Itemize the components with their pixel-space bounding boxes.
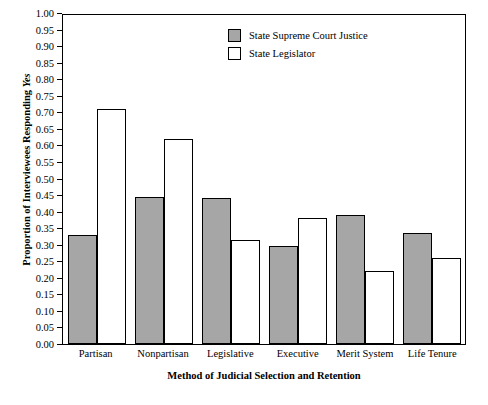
y-axis-tick-label: 0.30 (36, 240, 54, 252)
y-axis-tick-label: 0.35 (36, 223, 54, 235)
y-axis-tick: 0.70 (0, 107, 62, 119)
y-axis-tick-label: 0.85 (36, 58, 54, 70)
y-axis-tick: 0.95 (0, 25, 62, 37)
bar (231, 240, 260, 344)
x-axis-title: Method of Judicial Selection and Retenti… (62, 370, 466, 381)
bar (202, 198, 231, 344)
y-axis-tick: 0.25 (0, 256, 62, 268)
bar-group (68, 15, 126, 344)
y-axis-tick-label: 0.25 (36, 256, 54, 268)
x-axis: PartisanNonpartisanLegislativeExecutiveM… (62, 345, 466, 365)
y-axis-tick: 0.65 (0, 124, 62, 136)
y-axis-tick: 0.00 (0, 339, 62, 351)
y-axis-tick: 0.10 (0, 306, 62, 318)
y-axis-tick-label: 0.45 (36, 190, 54, 202)
y-axis-tick: 0.85 (0, 58, 62, 70)
y-axis-tick: 0.05 (0, 322, 62, 334)
bar (298, 218, 327, 344)
y-axis-tick: 0.55 (0, 157, 62, 169)
y-axis-tick: 0.30 (0, 240, 62, 252)
y-axis-tick-label: 0.65 (36, 124, 54, 136)
y-axis-tick-label: 0.90 (36, 41, 54, 53)
bar (365, 271, 394, 344)
bar (403, 233, 432, 344)
legend-label: State Legislator (249, 47, 315, 60)
y-axis-tick-label: 0.60 (36, 140, 54, 152)
bar (68, 235, 97, 344)
bar-group (403, 15, 461, 344)
y-axis-tick: 1.00 (0, 8, 62, 20)
y-axis-tick-label: 0.15 (36, 289, 54, 301)
y-axis-tick: 0.50 (0, 174, 62, 186)
y-axis-tick-label: 0.50 (36, 174, 54, 186)
bar-chart: Proportion of Interviewees Responding Ye… (0, 0, 488, 405)
y-axis-tick-label: 0.55 (36, 157, 54, 169)
bar-group (135, 15, 193, 344)
y-axis-tick: 0.90 (0, 41, 62, 53)
bar (135, 197, 164, 344)
y-axis-tick-label: 0.70 (36, 107, 54, 119)
legend-item: State Legislator (228, 47, 368, 60)
x-axis-tick-label: Executive (264, 345, 331, 363)
bar (336, 215, 365, 344)
bar (97, 109, 126, 344)
y-axis: 1.000.950.900.850.800.750.700.650.600.55… (0, 14, 62, 345)
legend-label: State Supreme Court Justice (249, 29, 368, 42)
y-axis-tick: 0.20 (0, 273, 62, 285)
legend-swatch-filled-icon (228, 29, 241, 42)
y-axis-tick: 0.80 (0, 74, 62, 86)
y-axis-tick-label: 0.40 (36, 207, 54, 219)
y-axis-tick: 0.15 (0, 289, 62, 301)
y-axis-tick: 0.75 (0, 91, 62, 103)
y-axis-tick-label: 1.00 (36, 8, 54, 20)
x-axis-tick-label: Life Tenure (399, 345, 466, 363)
y-axis-tick-label: 0.20 (36, 273, 54, 285)
y-axis-tick-label: 0.80 (36, 74, 54, 86)
legend-item: State Supreme Court Justice (228, 29, 368, 42)
legend-swatch-hollow-icon (228, 47, 241, 60)
y-axis-tick: 0.45 (0, 190, 62, 202)
legend: State Supreme Court Justice State Legisl… (228, 29, 368, 65)
x-axis-tick-label: Partisan (62, 345, 129, 363)
bar (164, 139, 193, 344)
y-axis-tick: 0.60 (0, 140, 62, 152)
x-axis-tick-label: Nonpartisan (129, 345, 196, 363)
bar (269, 246, 298, 344)
y-axis-tick-label: 0.05 (36, 322, 54, 334)
y-axis-tick-label: 0.10 (36, 306, 54, 318)
x-axis-tick-label: Merit System (331, 345, 398, 363)
y-axis-tick-label: 0.00 (36, 339, 54, 351)
x-axis-tick-label: Legislative (197, 345, 264, 363)
y-axis-tick: 0.40 (0, 207, 62, 219)
y-axis-tick-label: 0.75 (36, 91, 54, 103)
bar (432, 258, 461, 344)
y-axis-tick: 0.35 (0, 223, 62, 235)
y-axis-tick-label: 0.95 (36, 25, 54, 37)
